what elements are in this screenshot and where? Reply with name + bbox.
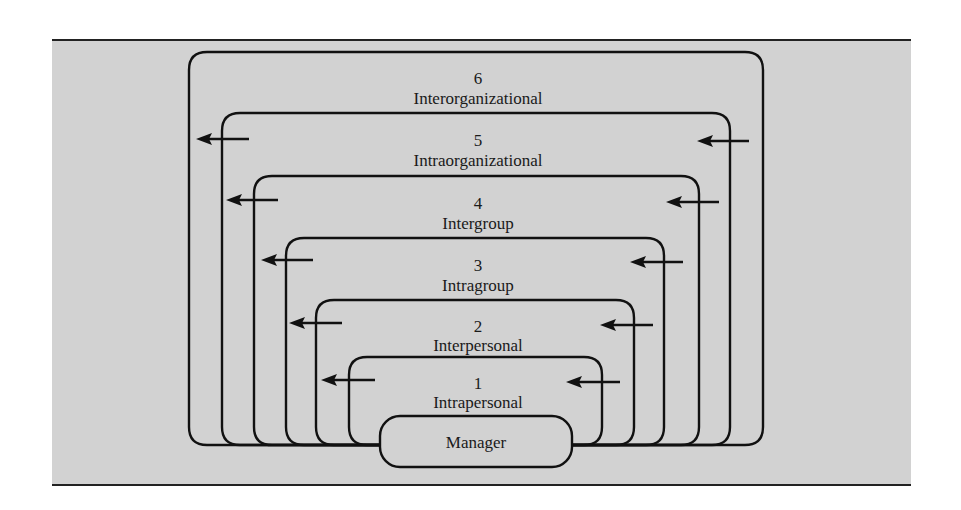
level-3-label: Intragroup — [442, 276, 514, 295]
level-1-number: 1 — [474, 374, 483, 393]
level-4-label: Intergroup — [442, 214, 513, 233]
level-6-number: 6 — [474, 69, 483, 88]
level-2-number: 2 — [474, 317, 483, 336]
level-5-label: Intraorganizational — [413, 151, 542, 170]
level-5-number: 5 — [474, 131, 483, 150]
level-6-label: Interorganizational — [413, 89, 542, 108]
level-4-number: 4 — [474, 194, 483, 213]
level-2-label: Interpersonal — [433, 336, 523, 355]
manager-label: Manager — [446, 433, 507, 452]
level-1-label: Intrapersonal — [433, 393, 523, 412]
manager-node: Manager — [380, 416, 572, 467]
conflict-levels-diagram: 6 Interorganizational 5 Intraorganizatio… — [0, 0, 961, 510]
level-3-number: 3 — [474, 256, 483, 275]
